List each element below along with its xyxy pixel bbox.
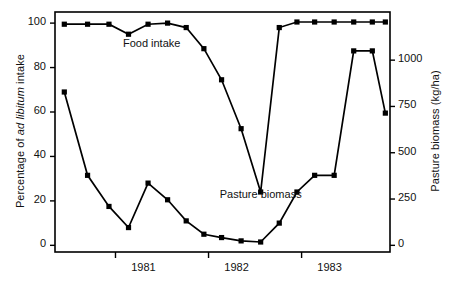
- y-axis-left-tick-label: 40: [16, 148, 46, 160]
- series-marker: [85, 22, 90, 27]
- series-marker: [145, 181, 150, 186]
- y-axis-right-tick-label: 500: [398, 145, 432, 157]
- series-marker: [351, 19, 356, 24]
- y-axis-right-tick-label: 750: [398, 98, 432, 110]
- series-marker: [351, 48, 356, 53]
- y-axis-right-tick-label: 1000: [398, 52, 432, 64]
- series-marker: [370, 19, 375, 24]
- series-marker: [277, 25, 282, 30]
- y-axis-left-tick-label: 20: [16, 193, 46, 205]
- series-line-1: [64, 22, 385, 192]
- series-marker: [184, 25, 189, 30]
- y-axis-right-tick-label: 0: [398, 237, 432, 249]
- y-axis-left-tick-label: 80: [16, 60, 46, 72]
- series-annotation: Pasture biomass: [220, 188, 302, 200]
- series-marker: [62, 89, 67, 94]
- x-axis-tick-label: 1982: [215, 261, 259, 273]
- series-marker: [165, 197, 170, 202]
- series-marker: [62, 22, 67, 27]
- series-marker: [383, 19, 388, 24]
- y-axis-left-tick-label: 100: [16, 15, 46, 27]
- series-annotation: Food intake: [123, 37, 180, 49]
- series-marker: [126, 32, 131, 37]
- series-marker: [332, 19, 337, 24]
- series-marker: [370, 48, 375, 53]
- series-marker: [312, 173, 317, 178]
- x-axis-tick-label: 1981: [121, 261, 165, 273]
- x-axis-tick-label: 1983: [308, 261, 352, 273]
- series-marker: [312, 19, 317, 24]
- series-marker: [383, 111, 388, 116]
- y-axis-right-tick-label: 250: [398, 191, 432, 203]
- series-marker: [85, 173, 90, 178]
- series-marker: [145, 22, 150, 27]
- series-marker: [219, 235, 224, 240]
- series-marker: [332, 173, 337, 178]
- series-marker: [106, 22, 111, 27]
- series-marker: [239, 238, 244, 243]
- series-marker: [239, 126, 244, 131]
- series-marker: [277, 221, 282, 226]
- series-marker: [201, 46, 206, 51]
- series-marker: [184, 218, 189, 223]
- y-axis-left-tick-label: 0: [16, 237, 46, 249]
- series-marker: [219, 77, 224, 82]
- series-marker: [165, 21, 170, 26]
- series-marker: [106, 204, 111, 209]
- chart-figure: Percentage of ad libitum intake Pasture …: [0, 0, 453, 286]
- plot-frame: [55, 12, 390, 252]
- series-marker: [294, 19, 299, 24]
- plot-area: [0, 0, 453, 286]
- series-marker: [201, 232, 206, 237]
- series-line-2: [64, 51, 385, 242]
- y-axis-left-tick-label: 60: [16, 104, 46, 116]
- series-marker: [258, 239, 263, 244]
- series-marker: [126, 225, 131, 230]
